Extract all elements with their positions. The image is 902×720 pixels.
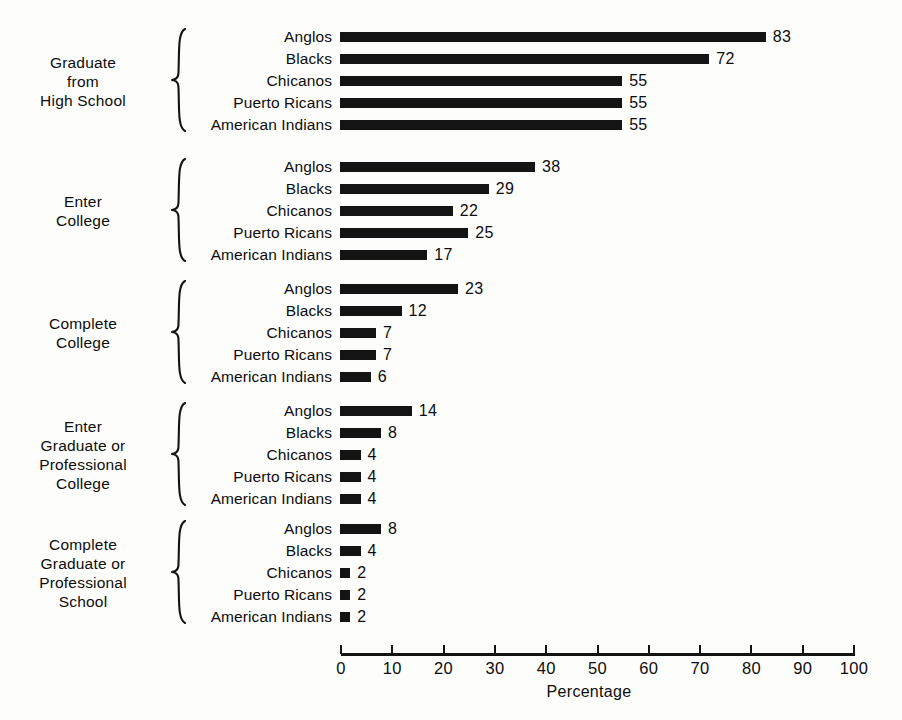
bar [340, 184, 489, 194]
x-axis-tick-label: 80 [742, 658, 761, 678]
x-axis-tick [340, 645, 342, 654]
bar-row: Chicanos22 [0, 200, 902, 222]
chart-group: CompleteGraduate orProfessionalSchoolAng… [0, 518, 902, 628]
bar-row: Chicanos2 [0, 562, 902, 584]
bar-value-label: 4 [368, 444, 377, 466]
bar-row: Puerto Ricans2 [0, 584, 902, 606]
bar-container: 8 [340, 518, 441, 540]
bar-row: Puerto Ricans7 [0, 344, 902, 366]
bar-container: 14 [340, 400, 472, 422]
category-label: Chicanos [150, 70, 332, 92]
category-label: American Indians [150, 488, 332, 510]
category-label: Chicanos [150, 200, 332, 222]
bar-value-label: 22 [460, 200, 478, 222]
category-label: Chicanos [150, 322, 332, 344]
x-axis-tick-label: 20 [434, 658, 453, 678]
bar [340, 98, 622, 108]
x-axis-tick [597, 645, 599, 654]
chart-group: CompleteCollegeAnglos23Blacks12Chicanos7… [0, 278, 902, 388]
category-label: Chicanos [150, 444, 332, 466]
bar-row: American Indians2 [0, 606, 902, 628]
bar-value-label: 14 [419, 400, 437, 422]
bar-container: 25 [340, 222, 528, 244]
bar-container: 38 [340, 156, 595, 178]
bar-value-label: 2 [357, 606, 366, 628]
x-axis-tick [494, 645, 496, 654]
x-axis-tick-label: 50 [588, 658, 607, 678]
x-axis: 0102030405060708090100 Percentage [0, 645, 902, 720]
bar-row: Anglos8 [0, 518, 902, 540]
bar-value-label: 55 [629, 92, 647, 114]
bar [340, 372, 371, 382]
bar-value-label: 4 [368, 540, 377, 562]
bar-row: Chicanos7 [0, 322, 902, 344]
category-label: American Indians [150, 606, 332, 628]
bar-container: 4 [340, 540, 421, 562]
bar-value-label: 2 [357, 562, 366, 584]
x-axis-tick-label: 90 [793, 658, 812, 678]
bar [340, 450, 361, 460]
bar-row: Blacks8 [0, 422, 902, 444]
bar-row: Puerto Ricans4 [0, 466, 902, 488]
category-label: Puerto Ricans [150, 584, 332, 606]
x-axis-tick-label: 10 [383, 658, 402, 678]
bar [340, 54, 709, 64]
bar-chart: GraduatefromHigh SchoolAnglos83Blacks72C… [0, 0, 902, 720]
x-axis-tick-label: 40 [537, 658, 556, 678]
bar [340, 228, 468, 238]
bar-container: 4 [340, 488, 421, 510]
bar [340, 350, 376, 360]
category-label: Anglos [150, 156, 332, 178]
bar-container: 2 [340, 562, 410, 584]
category-label: American Indians [150, 366, 332, 388]
bar-row: Chicanos4 [0, 444, 902, 466]
bar-value-label: 8 [388, 422, 397, 444]
bar [340, 120, 622, 130]
bar-container: 2 [340, 606, 410, 628]
x-axis-tick [648, 645, 650, 654]
bar [340, 162, 535, 172]
bar [340, 250, 427, 260]
category-label: Blacks [150, 422, 332, 444]
category-label: Blacks [150, 178, 332, 200]
bar [340, 524, 381, 534]
bar [340, 32, 766, 42]
bar-container: 55 [340, 92, 682, 114]
x-axis-tick [802, 645, 804, 654]
bar-container: 72 [340, 48, 769, 70]
category-label: Puerto Ricans [150, 466, 332, 488]
bar [340, 76, 622, 86]
bar-row: Blacks72 [0, 48, 902, 70]
chart-group: EnterCollegeAnglos38Blacks29Chicanos22Pu… [0, 156, 902, 266]
bar [340, 206, 453, 216]
bar-row: American Indians55 [0, 114, 902, 136]
bar-container: 55 [340, 70, 682, 92]
x-axis-tick-label: 70 [691, 658, 710, 678]
bar-container: 22 [340, 200, 513, 222]
bar-row: American Indians6 [0, 366, 902, 388]
bar-container: 17 [340, 244, 487, 266]
category-label: Blacks [150, 540, 332, 562]
category-label: Anglos [150, 518, 332, 540]
x-axis-tick-label: 30 [485, 658, 504, 678]
bar-row: Blacks29 [0, 178, 902, 200]
bar-value-label: 17 [434, 244, 452, 266]
category-label: Anglos [150, 278, 332, 300]
bar-container: 4 [340, 444, 421, 466]
category-label: Anglos [150, 26, 332, 48]
category-label: American Indians [150, 114, 332, 136]
bar [340, 568, 350, 578]
chart-group: GraduatefromHigh SchoolAnglos83Blacks72C… [0, 26, 902, 136]
bar-row: Chicanos55 [0, 70, 902, 92]
category-label: Puerto Ricans [150, 92, 332, 114]
bar-container: 83 [340, 26, 826, 48]
bar-value-label: 83 [773, 26, 791, 48]
bar-row: American Indians4 [0, 488, 902, 510]
bar [340, 590, 350, 600]
bar [340, 328, 376, 338]
bar [340, 612, 350, 622]
bar-value-label: 7 [383, 322, 392, 344]
x-axis-tick [750, 645, 752, 654]
bar-value-label: 29 [496, 178, 514, 200]
bar-value-label: 4 [368, 466, 377, 488]
